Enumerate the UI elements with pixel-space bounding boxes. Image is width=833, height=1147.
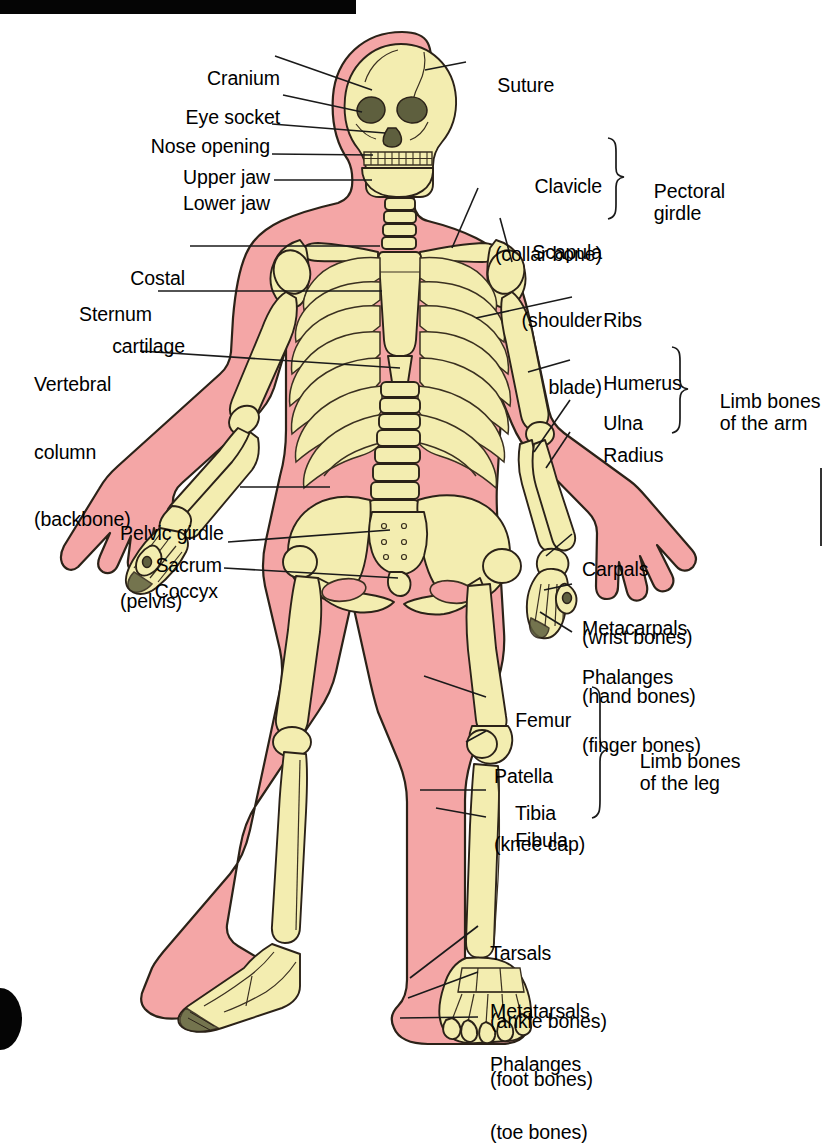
label-scapula-line2: (shoulder xyxy=(420,309,602,332)
group-label-limb-bones-arm: Limb bones of the arm xyxy=(698,367,821,457)
group-label-limb-bones-arm-line2: of the arm xyxy=(720,412,808,434)
label-lower-jaw-text: Lower jaw xyxy=(183,192,270,214)
label-ribs: Ribs xyxy=(582,286,642,354)
label-phalanges-foot-line1: Phalanges xyxy=(490,1053,588,1076)
group-label-pectoral-girdle: Pectoral girdle xyxy=(632,157,725,247)
label-phalanges-hand-line1: Phalanges xyxy=(582,666,701,689)
label-vertebral-column-line2: column xyxy=(34,441,214,464)
group-label-pectoral-girdle-line1: Pectoral xyxy=(654,180,726,202)
label-clavicle-line1: Clavicle xyxy=(420,175,602,198)
label-fibula: Fibula xyxy=(494,806,568,874)
label-coccyx: Coccyx xyxy=(0,557,218,625)
group-label-limb-bones-leg-line2: of the leg xyxy=(640,772,720,794)
label-sternum-text: Sternum xyxy=(79,303,152,325)
group-label-limb-bones-leg: Limb bones of the leg xyxy=(618,727,741,817)
label-coccyx-text: Coccyx xyxy=(155,580,218,602)
label-radius: Radius xyxy=(582,421,663,489)
label-suture-text: Suture xyxy=(497,74,554,96)
label-scapula: Scapula (shoulder blade) xyxy=(420,196,602,444)
label-ribs-text: Ribs xyxy=(603,309,642,331)
label-phalanges-foot: Phalanges (toe bones) xyxy=(490,1008,588,1147)
group-label-limb-bones-leg-line1: Limb bones xyxy=(640,750,741,772)
group-label-pectoral-girdle-line2: girdle xyxy=(654,202,702,224)
label-vertebral-column-line1: Vertebral xyxy=(34,373,214,396)
cervical-spine xyxy=(382,198,416,249)
label-phalanges-foot-line2: (toe bones) xyxy=(490,1121,588,1144)
label-suture: Suture xyxy=(476,51,554,119)
label-radius-text: Radius xyxy=(603,444,663,466)
label-fibula-text: Fibula xyxy=(515,829,568,851)
label-scapula-line1: Scapula xyxy=(420,241,602,264)
group-label-limb-bones-arm-line1: Limb bones xyxy=(720,390,821,412)
label-scapula-line3: blade) xyxy=(420,376,602,399)
